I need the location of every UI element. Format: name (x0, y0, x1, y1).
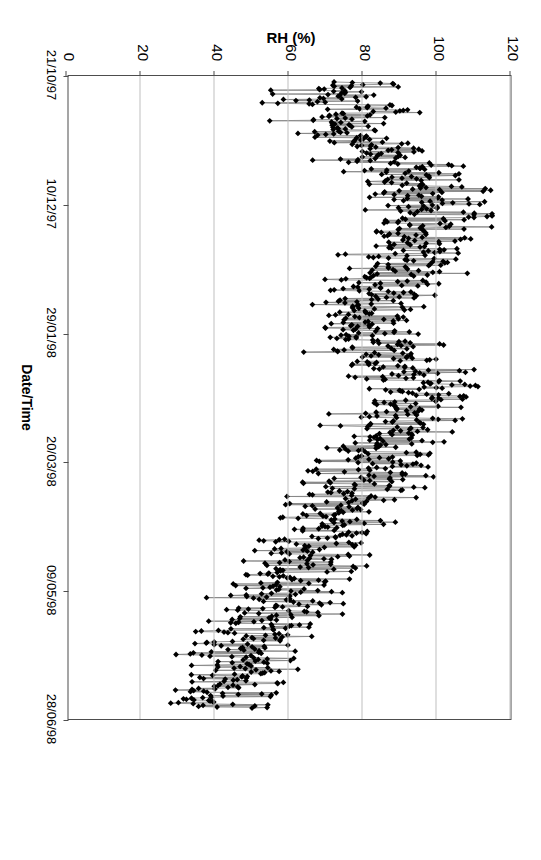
date-axis-tick-label: 09/05/98 (43, 545, 58, 635)
date-axis-tick-label: 21/10/97 (43, 30, 58, 120)
date-axis-tick (63, 205, 68, 206)
gridline (509, 76, 510, 719)
series-plot (67, 76, 510, 719)
date-axis-tick (63, 591, 68, 592)
gridline (213, 76, 214, 719)
date-axis-tick-label: 28/06/98 (43, 674, 58, 764)
value-axis-tick-label: 20 (134, 0, 151, 61)
gridline (435, 76, 436, 719)
value-axis-tick-label: 0 (60, 0, 77, 61)
value-axis-tick (361, 71, 362, 76)
date-axis-tick (63, 462, 68, 463)
rh-time-series-chart: 020406080100120 21/10/9710/12/9729/01/98… (0, 0, 541, 860)
value-axis-tick-label: 100 (430, 0, 447, 61)
date-axis-tick-label: 29/01/98 (43, 288, 58, 378)
value-axis-tick-label: 40 (208, 0, 225, 61)
date-axis-tick (63, 76, 68, 77)
gridline (287, 76, 288, 719)
value-axis-tick (213, 71, 214, 76)
series-line (170, 82, 491, 708)
plot-area (67, 75, 511, 720)
value-axis-tick (435, 71, 436, 76)
value-axis-tick (287, 71, 288, 76)
gridline (139, 76, 140, 719)
gridline (361, 76, 362, 719)
value-axis-tick-label: 80 (356, 0, 373, 61)
value-axis-tick (139, 71, 140, 76)
value-axis-tick-label: 120 (504, 0, 521, 61)
date-axis-tick-label: 10/12/97 (43, 159, 58, 249)
date-axis-tick (63, 720, 68, 721)
value-axis-title: RH (%) (231, 29, 351, 46)
date-axis-title: Date/Time (18, 338, 34, 458)
date-axis-tick (63, 334, 68, 335)
value-axis-tick (509, 71, 510, 76)
date-axis-tick-label: 20/03/98 (43, 416, 58, 506)
rotated-figure-wrapper: 020406080100120 21/10/9710/12/9729/01/98… (0, 0, 541, 860)
